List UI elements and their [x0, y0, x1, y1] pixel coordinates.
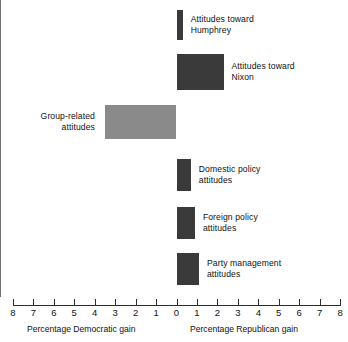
bar	[177, 10, 183, 40]
axis-tick	[238, 299, 239, 306]
axis-tick-label: 5	[65, 307, 83, 318]
bar-label: Foreign policy attitudes	[203, 212, 258, 234]
axis-tick-label: 3	[106, 307, 124, 318]
plot-area: Attitudes toward HumphreyAttitudes towar…	[0, 0, 348, 297]
axis-tick	[279, 299, 280, 306]
bar-row: Attitudes toward Nixon	[0, 54, 348, 90]
axis-tick-label: 6	[45, 307, 63, 318]
axis-tick-label: 1	[147, 307, 165, 318]
bar-row: Group-related attitudes	[0, 105, 348, 139]
bar	[177, 207, 195, 239]
bar	[105, 105, 177, 139]
axis-tick-label: 5	[270, 307, 288, 318]
bar-label: Attitudes toward Humphrey	[191, 14, 254, 36]
axis-tick	[156, 299, 157, 306]
axis-tick	[74, 299, 75, 306]
axis-tick	[320, 299, 321, 306]
axis-tick-label: 6	[290, 307, 308, 318]
bar-label: Party management attitudes	[207, 258, 281, 280]
bar-label: Attitudes toward Nixon	[232, 61, 295, 83]
axis-tick	[217, 299, 218, 306]
bar-label: Domestic policy attitudes	[199, 164, 261, 186]
bar-label: Group-related attitudes	[41, 111, 95, 133]
axis-tick	[299, 299, 300, 306]
axis-tick-label: 4	[249, 307, 267, 318]
axis-tick	[177, 299, 178, 306]
axis-tick	[197, 299, 198, 306]
axis-caption-democratic: Percentage Democratic gain	[27, 324, 135, 334]
bar-chart: Attitudes toward HumphreyAttitudes towar…	[0, 0, 348, 342]
bar-row: Domestic policy attitudes	[0, 159, 348, 191]
axis-tick	[115, 299, 116, 306]
axis-tick-label: 0	[168, 307, 186, 318]
axis-tick	[95, 299, 96, 306]
axis-tick	[33, 299, 34, 306]
axis-tick	[258, 299, 259, 306]
axis-tick-label: 2	[127, 307, 145, 318]
axis-tick-label: 8	[331, 307, 348, 318]
axis-tick-label: 3	[229, 307, 247, 318]
bar	[177, 253, 199, 285]
bar	[177, 159, 191, 191]
axis-tick-label: 7	[24, 307, 42, 318]
axis-tick	[340, 299, 341, 306]
bar-row: Attitudes toward Humphrey	[0, 10, 348, 40]
bar-row: Foreign policy attitudes	[0, 207, 348, 239]
axis-tick-label: 1	[188, 307, 206, 318]
axis-tick	[136, 299, 137, 306]
axis-tick-label: 2	[208, 307, 226, 318]
bar	[177, 54, 224, 90]
axis-tick	[13, 299, 14, 306]
axis-caption-republican: Percentage Republican gain	[190, 324, 298, 334]
axis-tick	[54, 299, 55, 306]
axis-tick-label: 7	[311, 307, 329, 318]
bar-row: Party management attitudes	[0, 253, 348, 285]
axis-tick-label: 4	[86, 307, 104, 318]
axis-tick-label: 8	[4, 307, 22, 318]
x-axis: 87654321012345678 Percentage Democratic …	[0, 297, 348, 342]
